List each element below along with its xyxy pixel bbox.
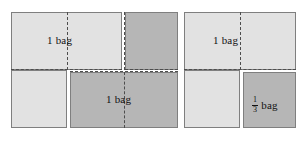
label-left-one-bag: 1 bag [47, 35, 72, 46]
fraction-one-third: 1 3 [252, 96, 258, 115]
third-bag-inline: 1 3 bag [252, 96, 278, 115]
dash-h-right [184, 69, 296, 70]
middle-top-rect [125, 12, 178, 70]
dash-v-middle-top [124, 12, 125, 70]
bag-area-model-diagram: 1 bag 1 bag 1 bag 1 3 bag [0, 0, 305, 141]
third-bag-unit: bag [261, 100, 277, 111]
dash-h-middle [125, 69, 178, 70]
fraction-numerator: 1 [252, 96, 258, 104]
fraction-denominator: 3 [252, 106, 258, 114]
label-third-bag: 1 3 bag [252, 93, 278, 115]
left-bottom-rect [11, 70, 67, 128]
dash-v-right [240, 12, 241, 70]
dash-h-left [11, 69, 122, 70]
label-right-one-bag: 1 bag [213, 35, 238, 46]
label-middle-one-bag: 1 bag [106, 94, 131, 105]
dash-h-middle-lower [70, 71, 178, 72]
right-bottom-rect [184, 70, 240, 128]
